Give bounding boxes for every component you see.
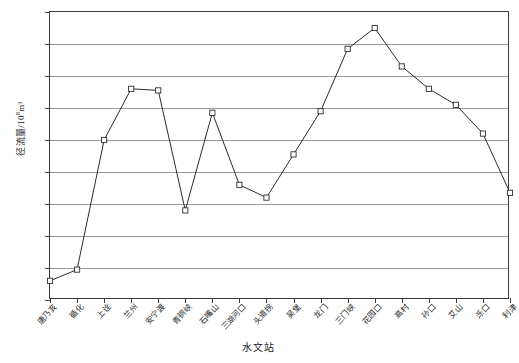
data-point-marker [480,131,485,136]
series-line [50,28,510,281]
x-axis-title: 水文站 [0,339,516,354]
data-point-marker [102,137,107,142]
data-point-marker [453,102,458,107]
data-point-marker [74,267,79,272]
y-axis-title-base: 径流量/10 [16,115,26,155]
y-axis-title: 径流量/108m³ [14,69,27,189]
y-axis-title-unit: m³ [16,101,26,111]
plot-area [49,11,509,299]
data-point-marker [345,46,350,51]
data-point-marker [318,109,323,114]
data-point-marker [372,25,377,30]
data-point-marker [264,195,269,200]
data-point-marker [507,190,512,195]
data-point-marker [291,152,296,157]
data-series [50,12,510,300]
y-axis-title-exponent: 8 [14,112,21,116]
data-point-marker [399,64,404,69]
data-point-marker [237,182,242,187]
data-point-marker [47,278,52,283]
data-point-marker [210,110,215,115]
data-point-marker [156,88,161,93]
data-point-marker [183,208,188,213]
data-point-marker [426,86,431,91]
data-point-marker [129,86,134,91]
